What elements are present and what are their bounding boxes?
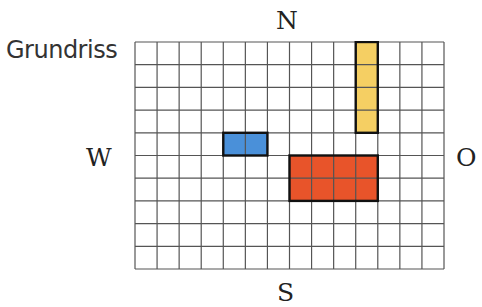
west-label: W [86, 145, 112, 170]
floor-plan-grid [134, 41, 443, 268]
floor-plan-title: Grundriss [6, 36, 117, 64]
north-label: N [276, 8, 298, 33]
south-label: S [277, 280, 294, 305]
east-label: O [456, 145, 477, 170]
